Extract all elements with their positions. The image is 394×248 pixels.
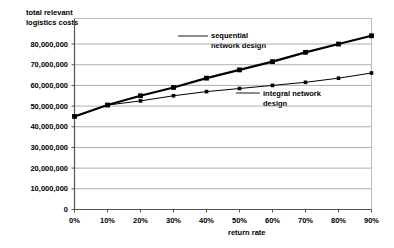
data-point-marker: [270, 59, 275, 64]
data-point-marker: [106, 103, 110, 107]
data-point-marker: [205, 90, 209, 94]
data-point-marker: [337, 76, 341, 80]
data-point-marker: [304, 81, 308, 85]
data-point-marker: [73, 115, 77, 119]
data-point-marker: [336, 42, 341, 47]
data-point-marker: [303, 50, 308, 55]
data-point-marker: [171, 85, 176, 90]
data-point-marker: [139, 99, 143, 103]
data-point-marker: [172, 94, 176, 98]
data-point-marker: [370, 71, 374, 75]
chart-container: total relevant logistics costs return ra…: [0, 0, 394, 248]
data-point-marker: [138, 93, 143, 98]
data-point-marker: [369, 33, 374, 38]
series-line-0: [75, 36, 372, 117]
plot-area: [0, 0, 394, 248]
data-point-marker: [237, 68, 242, 73]
data-point-marker: [204, 76, 209, 81]
series-line-1: [75, 73, 372, 116]
data-point-marker: [271, 84, 275, 88]
data-point-marker: [238, 87, 242, 91]
